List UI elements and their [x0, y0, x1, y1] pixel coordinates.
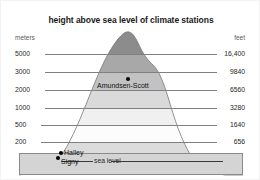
station-label-amundsen-scott: Amundsen-Scott [97, 82, 149, 89]
tick-right-3280: 3280 [230, 104, 245, 111]
band-1000 [1, 108, 260, 125]
band-5000 [1, 54, 260, 72]
tick-left-1000: 1000 [15, 104, 30, 111]
band-2000 [1, 90, 260, 108]
tick-right-9840: 9840 [230, 68, 245, 75]
gridline-5000 [45, 54, 217, 55]
gridline-3000 [45, 72, 217, 73]
gridline-1000 [45, 108, 217, 109]
band-peak [1, 1, 260, 54]
chart-container: height above sea level of climate statio… [0, 0, 260, 180]
band-500 [1, 125, 260, 142]
gridline-2000 [45, 90, 217, 91]
tick-left-500: 500 [15, 121, 26, 128]
tick-left-2000: 2000 [15, 86, 30, 93]
tick-left-3000: 3000 [15, 68, 30, 75]
sea-level-line-right [111, 161, 223, 162]
tick-right-16400: 16,400 [224, 50, 245, 57]
gridline-200 [41, 142, 217, 143]
tick-right-6560: 6560 [230, 86, 245, 93]
sea-level-box [19, 153, 243, 175]
station-label-signy: Signy [61, 158, 79, 165]
tick-left-200: 200 [15, 138, 26, 145]
tick-right-1640: 1640 [230, 121, 245, 128]
station-marker-amundsen-scott [126, 77, 130, 81]
station-marker-signy [56, 156, 60, 160]
gridline-500 [41, 125, 217, 126]
tick-right-656: 656 [234, 138, 245, 145]
station-marker-halley [59, 151, 63, 155]
band-200 [1, 142, 260, 153]
tick-left-5000: 5000 [15, 50, 30, 57]
station-label-halley: Halley [64, 149, 83, 156]
